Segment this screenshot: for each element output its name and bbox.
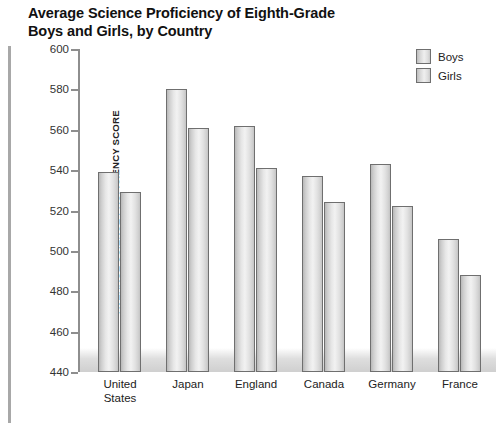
bar-group (234, 126, 278, 372)
baseline-shading-band (80, 348, 496, 372)
y-tick-mark (71, 372, 78, 374)
bar-girls (460, 275, 481, 372)
y-tick-mark (71, 332, 78, 334)
bar-group (302, 176, 346, 372)
bar-girls (324, 202, 345, 372)
bar-group (370, 164, 414, 372)
y-tick-mark (71, 170, 78, 172)
y-axis-line (78, 49, 80, 372)
y-tick-mark (71, 251, 78, 253)
y-tick-mark (71, 49, 78, 51)
chart-title: Average Science Proficiency of Eighth-Gr… (28, 4, 458, 40)
bar-boys (370, 164, 391, 372)
bar-girls (392, 206, 413, 372)
plot-area: 440460480500520540560580600 UnitedStates… (78, 49, 496, 372)
bar-boys (438, 239, 459, 372)
y-tick-label: 560 (50, 124, 69, 136)
y-tick-label: 540 (50, 164, 69, 176)
bar-group (166, 89, 210, 372)
y-tick-mark (71, 130, 78, 132)
y-tick-label: 520 (50, 205, 69, 217)
bar-girls (256, 168, 277, 372)
y-tick-mark (71, 89, 78, 91)
y-tick-mark (71, 211, 78, 213)
bar-girls (188, 128, 209, 372)
bar-girls (120, 192, 141, 372)
x-axis-label-line-1: France (415, 377, 499, 391)
chart-title-line-2: Boys and Girls, by Country (28, 22, 458, 40)
x-axis-label-line-2: States (75, 391, 165, 405)
bar-boys (234, 126, 255, 372)
y-tick-label: 580 (50, 83, 69, 95)
bar-boys (302, 176, 323, 372)
y-tick-label: 500 (50, 245, 69, 257)
chart-title-line-1: Average Science Proficiency of Eighth-Gr… (28, 4, 458, 22)
y-tick-label: 600 (50, 43, 69, 55)
bar-group (438, 239, 482, 372)
y-tick-label: 460 (50, 326, 69, 338)
x-axis-label: France (415, 377, 499, 391)
y-tick-mark (71, 291, 78, 293)
figure-left-rule (8, 46, 11, 423)
bar-boys (98, 172, 119, 372)
bar-group (98, 172, 142, 372)
bar-boys (166, 89, 187, 372)
y-tick-label: 480 (50, 285, 69, 297)
y-tick-label: 440 (50, 366, 69, 378)
